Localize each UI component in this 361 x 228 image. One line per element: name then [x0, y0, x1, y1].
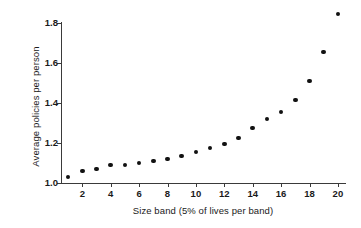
data-point — [222, 142, 227, 147]
data-point — [66, 175, 71, 180]
data-point — [208, 146, 213, 151]
x-tick-label: 12 — [219, 188, 230, 199]
x-axis-title: Size band (5% of lives per band) — [61, 205, 345, 216]
x-tick-label: 2 — [80, 188, 85, 199]
x-tick-mark — [168, 183, 169, 187]
data-point — [293, 98, 298, 103]
data-point — [194, 150, 199, 155]
scatter-chart-figure: Average policies per person Size band (5… — [0, 0, 361, 228]
y-tick-label: 1.0 — [45, 177, 58, 188]
data-point — [80, 169, 85, 174]
y-tick-label: 1.4 — [45, 97, 58, 108]
y-tick-label: 1.2 — [45, 137, 58, 148]
data-point — [137, 161, 142, 166]
y-axis-title: Average policies per person — [30, 12, 41, 202]
data-point — [336, 12, 341, 17]
x-tick-label: 18 — [304, 188, 315, 199]
data-point — [108, 163, 113, 168]
x-tick-mark — [338, 183, 339, 187]
data-point — [179, 154, 184, 159]
y-tick-label: 1.6 — [45, 57, 58, 68]
x-tick-mark — [82, 183, 83, 187]
y-tick-label: 1.8 — [45, 17, 58, 28]
plot-area: 1.01.21.41.61.8 2468101214161820 — [61, 23, 345, 183]
x-tick-mark — [310, 183, 311, 187]
data-point — [250, 126, 255, 131]
x-tick-mark — [111, 183, 112, 187]
x-tick-label: 4 — [108, 188, 113, 199]
x-tick-mark — [196, 183, 197, 187]
data-point — [265, 117, 270, 122]
x-tick-label: 10 — [191, 188, 202, 199]
data-point — [279, 110, 284, 115]
data-point — [151, 159, 156, 164]
x-tick-mark — [253, 183, 254, 187]
data-point — [123, 163, 128, 168]
data-point — [236, 136, 241, 141]
x-tick-label: 6 — [136, 188, 141, 199]
x-tick-mark — [139, 183, 140, 187]
x-tick-mark — [281, 183, 282, 187]
data-point — [307, 79, 312, 84]
x-tick-label: 14 — [247, 188, 258, 199]
x-tick-label: 8 — [165, 188, 170, 199]
data-point — [165, 157, 170, 162]
x-tick-mark — [224, 183, 225, 187]
x-tick-label: 16 — [276, 188, 287, 199]
data-point — [94, 167, 99, 172]
x-tick-label: 20 — [333, 188, 344, 199]
data-point — [321, 50, 326, 55]
x-axis-line — [61, 183, 346, 184]
